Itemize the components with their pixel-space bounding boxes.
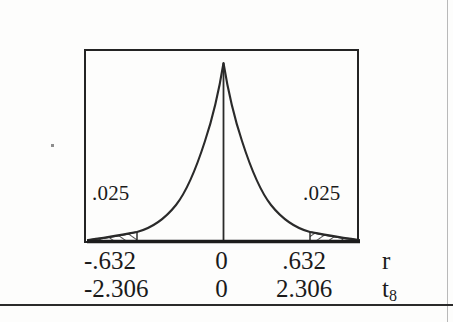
alpha-label-right: .025 — [303, 183, 341, 204]
t-axis-symbol-text: t — [382, 275, 389, 302]
figure-page: .025 .025 -.632 0 .632 r -2.306 0 2.306 … — [0, 0, 453, 322]
alpha-label-left: .025 — [92, 183, 130, 204]
t-axis-degrees-of-freedom: 8 — [389, 287, 397, 304]
scan-speck — [51, 144, 54, 147]
axis-row-t: -2.306 0 2.306 t8 — [84, 274, 424, 304]
t-positive-critical-value: 2.306 — [249, 274, 359, 304]
r-positive-critical-value: .632 — [249, 246, 359, 276]
plot-frame — [84, 49, 359, 243]
axis-row-r: -.632 0 .632 r — [84, 246, 424, 276]
distribution-curve-graphic — [86, 51, 361, 245]
r-axis-symbol: r — [382, 246, 390, 276]
page-bottom-rule — [0, 304, 453, 306]
r-axis-symbol-text: r — [382, 247, 390, 274]
page-margin-rule — [447, 0, 448, 322]
